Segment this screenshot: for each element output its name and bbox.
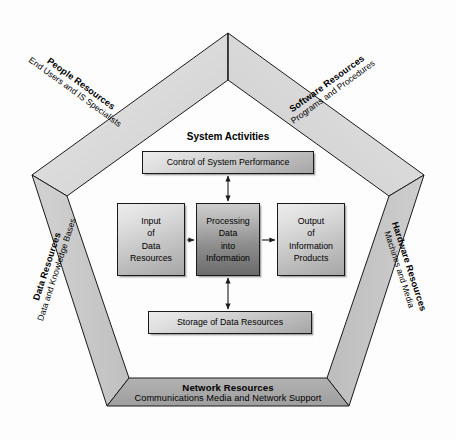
box-process-line1: Processing	[206, 216, 250, 226]
box-output-line2: of	[307, 228, 314, 238]
box-input-line1: Input	[141, 216, 161, 226]
box-output-of-information-products[interactable]: Output of Information Products	[277, 203, 345, 276]
box-input-line4: Resources	[130, 253, 172, 263]
box-control-of-system-performance[interactable]: Control of System Performance	[142, 151, 314, 174]
box-process-line4: Information	[206, 253, 250, 263]
box-output-line3: Information	[289, 241, 333, 251]
box-process-line2: Data	[219, 228, 238, 238]
box-input-line3: Data	[142, 241, 161, 251]
box-control-label: Control of System Performance	[164, 156, 293, 168]
edge-subtitle-network: Communications Media and Network Support	[78, 393, 378, 404]
box-process-line3: into	[221, 241, 235, 251]
box-processing-data-into-information[interactable]: Processing Data into Information	[196, 203, 260, 276]
box-output-line4: Products	[294, 253, 329, 263]
box-process-label: Processing Data into Information	[203, 215, 253, 265]
box-storage-of-data-resources[interactable]: Storage of Data Resources	[148, 311, 312, 334]
edge-title-network: Network Resources	[78, 382, 378, 393]
box-output-line1: Output	[298, 216, 324, 226]
edge-label-network: Network Resources Communications Media a…	[78, 382, 378, 404]
box-input-label: Input of Data Resources	[127, 215, 175, 265]
information-system-pentagon-diagram: People Resources End Users and IS Specia…	[0, 0, 456, 440]
system-activities-heading: System Activities	[187, 131, 269, 142]
box-storage-label: Storage of Data Resources	[174, 316, 286, 328]
box-output-label: Output of Information Products	[286, 215, 336, 265]
box-input-of-data-resources[interactable]: Input of Data Resources	[117, 203, 185, 276]
box-input-line2: of	[147, 228, 154, 238]
